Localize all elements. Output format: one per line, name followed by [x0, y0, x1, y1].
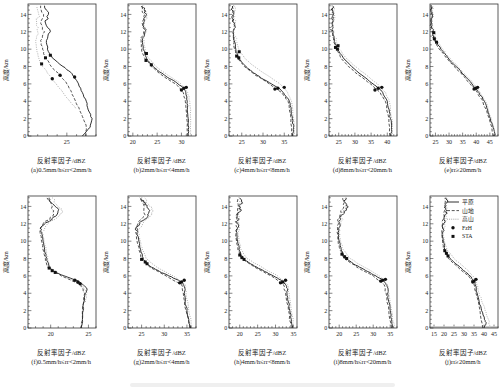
x-tick-label: 40: [384, 139, 390, 145]
y-axis-label: 高度/km: [203, 251, 211, 273]
panel-d-chart: 2530354002468101214高度/km: [301, 0, 401, 156]
series-line-plain: [142, 6, 189, 136]
panel-d: 2530354002468101214高度/km反射率因子/dBZ(d)8mm/…: [301, 0, 401, 192]
y-tick-label: 4: [124, 290, 127, 296]
x-tick-label: 30: [179, 139, 185, 145]
y-tick-label: 10: [422, 238, 428, 244]
panel-f-chart: 202502468101214高度/km: [0, 192, 100, 348]
y-tick-label: 10: [221, 46, 227, 52]
x-tick-label: 25: [353, 331, 359, 337]
x-tick-label: 20: [336, 331, 342, 337]
x-tick-label: 15: [431, 331, 437, 337]
y-tick-label: 2: [224, 116, 227, 122]
panel-c: 25303502468101214高度/km反射率因子/dBZ(c)4mm/h≤…: [201, 0, 301, 192]
fzh-marker: [58, 74, 61, 77]
x-tick-label: 20: [48, 331, 54, 337]
panel-e-chart: 253035404502468101214高度/km: [402, 0, 502, 156]
fzh-marker: [185, 86, 188, 89]
y-tick-label: 0: [23, 133, 26, 139]
x-tick-label: 45: [491, 331, 497, 337]
x-tick-label: 40: [473, 139, 479, 145]
plot-frame: [329, 4, 397, 136]
y-tick-label: 8: [23, 64, 26, 70]
panel-f-xlabel: 反射率因子/dBZ: [0, 349, 100, 357]
x-tick-label: 35: [368, 139, 374, 145]
fzh-marker: [379, 279, 382, 282]
legend-label: FzH: [462, 225, 473, 231]
y-tick-label: 8: [224, 64, 227, 70]
y-tick-label: 12: [321, 29, 327, 35]
fzh-marker: [178, 281, 181, 284]
x-tick-label: 35: [387, 331, 393, 337]
y-axis-label: 高度/km: [2, 251, 10, 273]
y-tick-label: 10: [221, 238, 227, 244]
panel-c-chart: 25303502468101214高度/km: [201, 0, 301, 156]
y-axis-label: 高度/km: [404, 251, 412, 273]
y-tick-label: 2: [124, 116, 127, 122]
x-tick-label: 35: [281, 139, 287, 145]
y-tick-label: 0: [224, 325, 227, 331]
fzh-marker: [73, 279, 76, 282]
panel-h-chart: 2025303502468101214高度/km: [201, 192, 301, 348]
sta-marker: [48, 267, 51, 270]
panel-c-caption: (c)4mm/h≤rr<8mm/h: [201, 166, 301, 174]
plot-frame: [430, 4, 498, 136]
y-tick-label: 0: [224, 133, 227, 139]
series-line-high_mountain: [233, 6, 294, 136]
panel-f: 202502468101214高度/km反射率因子/dBZ(f)0.5mm/h≤…: [0, 192, 100, 380]
x-tick-label: 35: [471, 331, 477, 337]
series-line-mountain: [235, 198, 291, 328]
panel-row-2: 202502468101214高度/km反射率因子/dBZ(f)0.5mm/h≤…: [0, 192, 502, 380]
sta-marker: [49, 54, 52, 57]
series-line-plain: [45, 6, 93, 136]
y-tick-label: 10: [20, 46, 26, 52]
panel-h-caption: (h)4mm/h≤rr<8mm/h: [201, 358, 301, 366]
panel-j-xlabel: 反射率因子/dBZ: [402, 349, 502, 357]
y-axis-label: 高度/km: [2, 59, 10, 81]
panel-c-xlabel: 反射率因子/dBZ: [201, 157, 301, 165]
x-tick-label: 20: [237, 331, 243, 337]
fzh-marker: [471, 280, 474, 283]
y-tick-label: 14: [20, 204, 26, 210]
y-tick-label: 4: [23, 290, 26, 296]
panel-i-xlabel: 反射率因子/dBZ: [301, 349, 401, 357]
plot-frame: [28, 4, 96, 136]
sta-marker: [235, 55, 238, 58]
y-tick-label: 4: [324, 98, 327, 104]
panel-j-chart: 1520253035404502468101214高度/km平原山地高山FzHS…: [402, 192, 502, 348]
y-tick-label: 4: [425, 290, 428, 296]
y-tick-label: 4: [224, 98, 227, 104]
panel-i-chart: 2025303502468101214高度/km: [301, 192, 401, 348]
y-tick-label: 2: [425, 116, 428, 122]
legend-label: STA: [462, 233, 473, 239]
fzh-marker: [284, 279, 287, 282]
sta-marker: [238, 254, 241, 257]
plot-frame: [128, 196, 196, 328]
panel-g-xlabel: 反射率因子/dBZ: [100, 349, 200, 357]
legend-entry-plain: 平原: [447, 199, 474, 206]
panel-g-chart: 25303502468101214高度/km: [100, 192, 200, 348]
plot-frame: [128, 4, 196, 136]
y-tick-label: 0: [324, 325, 327, 331]
y-tick-label: 8: [224, 256, 227, 262]
y-tick-label: 8: [124, 64, 127, 70]
x-tick-label: 25: [85, 331, 91, 337]
series-line-high_mountain: [238, 198, 294, 328]
panel-d-caption: (d)8mm/h≤rr<20mm/h: [301, 166, 401, 174]
y-tick-label: 10: [121, 46, 127, 52]
y-tick-label: 2: [23, 308, 26, 314]
series-line-mountain: [430, 6, 493, 136]
fzh-marker: [183, 279, 186, 282]
y-tick-label: 12: [221, 29, 227, 35]
x-tick-label: 20: [441, 331, 447, 337]
panel-g: 25303502468101214高度/km反射率因子/dBZ(g)2mm/h≤…: [100, 192, 200, 380]
y-tick-label: 12: [20, 221, 26, 227]
fzh-marker: [472, 87, 475, 90]
x-tick-label: 30: [352, 139, 358, 145]
y-tick-label: 12: [221, 221, 227, 227]
series-line-mountain: [41, 6, 87, 136]
y-tick-label: 14: [121, 12, 127, 18]
sta-marker: [44, 56, 47, 59]
y-tick-label: 8: [425, 64, 428, 70]
y-tick-label: 14: [121, 204, 127, 210]
